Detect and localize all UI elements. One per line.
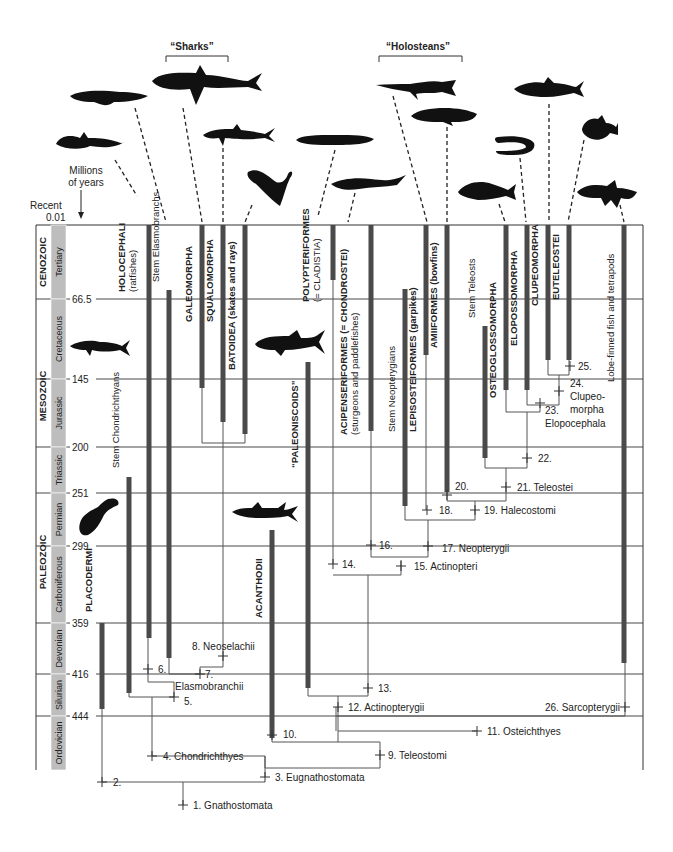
taxon-bar [567, 225, 572, 360]
svg-text:(= CLADISTIA): (= CLADISTIA) [311, 238, 322, 302]
node-label: 8. Neoselachii [192, 641, 255, 661]
taxon-bar [127, 477, 132, 693]
svg-text:SQUALOMORPHA: SQUALOMORPHA [204, 239, 215, 322]
node-label: 5. [169, 692, 192, 707]
svg-text:MESOZOIC: MESOZOIC [37, 371, 48, 422]
squalomorph-shark-silhouette-icon [203, 124, 275, 146]
node-label: Elasmobranchii [175, 681, 243, 692]
svg-text:24.: 24. [570, 378, 584, 389]
node-label: 13. [363, 683, 392, 694]
svg-text:Devonian: Devonian [54, 629, 64, 667]
taxon-label: Stem Elasmobranchs [150, 191, 161, 282]
geologic-timescale: TertiaryCretaceousJurassicTriassicPermia… [37, 225, 66, 770]
period-silurian: Silurian [51, 674, 66, 716]
taxon-bar [270, 530, 275, 738]
taxon-bar [243, 225, 248, 434]
svg-text:(sturgeons and paddlefishes): (sturgeons and paddlefishes) [349, 312, 360, 435]
sturgeon-silhouette-icon [331, 175, 406, 190]
taxon-label: ACIPENSERIFORMES (= CHONDROSTEI)(sturgeo… [338, 249, 360, 435]
svg-text:Stem Teleosts: Stem Teleosts [466, 258, 477, 318]
svg-text:66.5: 66.5 [72, 294, 92, 305]
bichir-silhouette-icon [296, 135, 374, 145]
taxon-label: EUTELEOSTEI [550, 234, 561, 300]
node-label: Clupeo- [570, 391, 605, 402]
svg-text:22.: 22. [538, 453, 552, 464]
period-ordovician: Ordovician [51, 716, 66, 770]
svg-text:AMIIFORMES (bowfins): AMIIFORMES (bowfins) [428, 242, 439, 348]
node-label: 6. [143, 664, 166, 675]
taxon-label: Lobe-finned fish and tetrapods [605, 253, 616, 382]
coelacanth-silhouette-icon [577, 180, 637, 208]
taxon-label: BATOIDEA (skates and rays) [226, 241, 237, 370]
svg-text:8. Neoselachii: 8. Neoselachii [192, 641, 255, 652]
taxon-label: ELOPOSSOMORPHA [508, 250, 519, 346]
svg-text:145: 145 [72, 374, 89, 385]
svg-text:4. Chondrichthyes: 4. Chondrichthyes [163, 751, 244, 762]
period-devonian: Devonian [51, 623, 66, 674]
silhouette-connector [115, 160, 137, 196]
node-label: 1. Gnathostomata [178, 800, 273, 811]
svg-text:Carboniferous: Carboniferous [54, 556, 64, 613]
svg-text:Tertiary: Tertiary [54, 247, 64, 277]
node-label: 19. Halecostomi [470, 505, 556, 516]
svg-text:19. Halecostomi: 19. Halecostomi [484, 505, 556, 516]
svg-text:ELOPOSSOMORPHA: ELOPOSSOMORPHA [508, 250, 519, 346]
svg-text:14.: 14. [342, 559, 356, 570]
node-labels: 1. Gnathostomata2.3. Eugnathostomata4. C… [97, 361, 630, 811]
taxon-label: Stem Neopterygians [386, 346, 397, 432]
taxon-label: ACANTHODII [253, 558, 264, 618]
herring-silhouette-icon [514, 77, 584, 97]
euteleost-silhouette-icon [582, 115, 618, 140]
arrowhead-icon [78, 212, 84, 219]
period-permian: Permian [51, 493, 66, 546]
svg-text:OSTEOGLOSSOMORPHA: OSTEOGLOSSOMORPHA [487, 282, 498, 398]
taxon-label: PLACODERMI [83, 548, 94, 612]
svg-text:Clupeo-: Clupeo- [570, 391, 605, 402]
node-label: 21. Teleostei [501, 482, 573, 493]
silhouette-connector [568, 140, 584, 222]
svg-text:23.: 23. [545, 405, 559, 416]
silhouette-connector [318, 150, 335, 216]
taxon-bar [306, 362, 311, 688]
ray-silhouette-icon [247, 170, 292, 206]
acanthodian-silhouette-icon [232, 502, 298, 522]
cretaceous-shark-silhouette-icon [70, 340, 130, 356]
svg-text:Elopocephala: Elopocephala [545, 418, 606, 429]
recent-value: 0.01 [46, 212, 66, 223]
cladogram-figure: 66.5145200251299359416444 TertiaryCretac… [0, 0, 673, 852]
taxon-label: GALEOMORPHA [183, 246, 194, 322]
paleoniscoid-silhouette-icon [255, 330, 325, 356]
svg-text:ACIPENSERIFORMES (= CHONDROSTE: ACIPENSERIFORMES (= CHONDROSTEI) [338, 249, 349, 435]
svg-text:17. Neopterygii: 17. Neopterygii [442, 543, 509, 554]
period-tertiary: Tertiary [51, 225, 66, 299]
svg-text:25.: 25. [578, 361, 592, 372]
taxon-label: Stem Chondrichthyans [110, 372, 121, 468]
stem-teleost-silhouette-icon [458, 182, 516, 200]
svg-text:“Holosteans”: “Holosteans” [386, 41, 450, 52]
taxon-label: AMIIFORMES (bowfins) [428, 242, 439, 348]
svg-text:(ratfishes): (ratfishes) [127, 250, 138, 292]
svg-text:ACANTHODII: ACANTHODII [253, 558, 264, 618]
svg-text:444: 444 [72, 711, 89, 722]
svg-text:EUTELEOSTEI: EUTELEOSTEI [550, 234, 561, 300]
ratfish-silhouette-icon [56, 132, 124, 149]
svg-text:Permian: Permian [54, 503, 64, 537]
svg-text:21. Teleostei: 21. Teleostei [517, 482, 573, 493]
taxon-label: HOLOCEPHALI(ratfishes) [116, 223, 138, 292]
silhouette-connector [520, 158, 526, 222]
svg-text:12. Actinopterygii: 12. Actinopterygii [348, 702, 424, 713]
svg-text:15. Actinopteri: 15. Actinopteri [414, 561, 477, 572]
taxon-bar [369, 225, 374, 431]
svg-text:1. Gnathostomata: 1. Gnathostomata [193, 800, 273, 811]
svg-text:6.: 6. [158, 664, 166, 675]
taxon-label: CLUPEOMORPHA [529, 224, 540, 306]
node-label: 9. Teleostomi [375, 750, 447, 761]
svg-text:Stem Elasmobranchs: Stem Elasmobranchs [150, 191, 161, 282]
taxon-label: OSTEOGLOSSOMORPHA [487, 282, 498, 398]
placoderm-silhouette-icon [79, 498, 118, 535]
node-label: 17. Neopterygii [423, 541, 509, 554]
node-label: 15. Actinopteri [396, 561, 477, 572]
node-label: 12. Actinopterygii [333, 702, 424, 713]
axis-title-line2: of years [68, 177, 104, 188]
silhouette-connector [348, 193, 355, 222]
